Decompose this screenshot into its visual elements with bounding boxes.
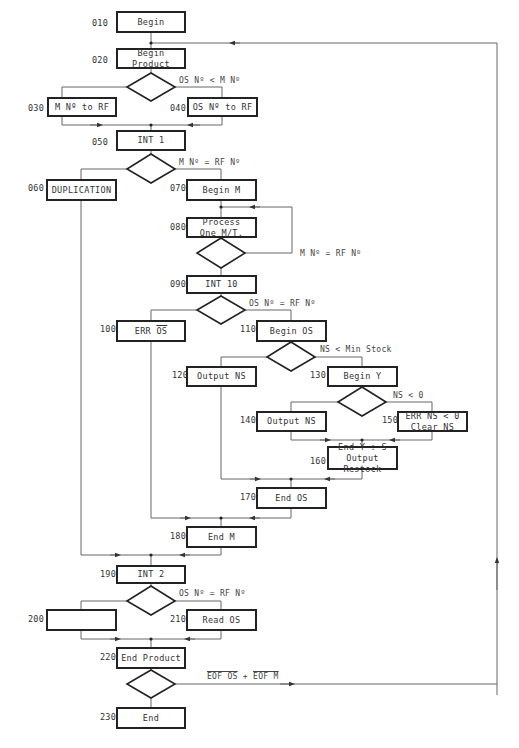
node-label: Begin Product bbox=[118, 48, 184, 70]
node-number: 020 bbox=[92, 55, 108, 65]
condition-eof-os: EOF OS bbox=[207, 672, 238, 681]
node-160-end-y-output-restock: End Y : S Output Restock bbox=[327, 446, 398, 470]
condition-label-d4: OS Nº = RF Nº bbox=[249, 299, 316, 308]
node-label: Begin bbox=[137, 17, 164, 28]
decision-d7 bbox=[127, 586, 175, 615]
node-number: 010 bbox=[92, 18, 108, 28]
node-label: Process One M/T. bbox=[200, 217, 243, 239]
node-030-m-to-rf: M Nº to RF bbox=[47, 97, 117, 117]
condition-label-d1: OS Nº < M Nº bbox=[179, 76, 240, 85]
node-090-int10: INT 10 bbox=[186, 275, 257, 294]
node-label: ERR NS < 0 Clear NS bbox=[405, 411, 459, 433]
node-number: 150 bbox=[382, 415, 398, 425]
node-label: DUPLICATION bbox=[52, 185, 112, 196]
node-label-overline: OS bbox=[156, 326, 167, 337]
node-080-process-one-mt: Process One M/T. bbox=[186, 217, 257, 238]
node-120-output-ns: Output NS bbox=[186, 366, 257, 387]
node-220-end-product: End Product bbox=[116, 647, 186, 669]
node-number: 230 bbox=[100, 712, 116, 722]
node-label: OS Nº to RF bbox=[193, 102, 253, 113]
node-210-read-os: Read OS bbox=[186, 609, 257, 631]
node-140-output-ns: Output NS bbox=[256, 411, 327, 432]
condition-label-d6: NS < 0 bbox=[393, 391, 424, 400]
decision-d3 bbox=[197, 238, 245, 268]
node-number: 190 bbox=[100, 569, 116, 579]
node-label: End OS bbox=[275, 493, 308, 504]
decision-d5 bbox=[267, 342, 315, 371]
node-110-begin-os: Begin OS bbox=[256, 320, 327, 342]
node-010-begin: Begin bbox=[116, 11, 186, 33]
node-number: 060 bbox=[28, 183, 44, 193]
node-050-int1: INT 1 bbox=[116, 130, 186, 151]
decision-d1 bbox=[127, 73, 175, 101]
condition-label-d3: M Nº = RF Nº bbox=[300, 249, 361, 258]
node-label: End Y : S Output Restock bbox=[329, 442, 396, 475]
node-label: End Product bbox=[121, 653, 181, 664]
node-number: 180 bbox=[170, 531, 186, 541]
node-number: 090 bbox=[170, 279, 186, 289]
condition-label-d2: M Nº = RF Nº bbox=[179, 158, 240, 167]
node-label: Output NS bbox=[267, 416, 316, 427]
node-190-int2: INT 2 bbox=[116, 565, 186, 584]
node-label: Read OS bbox=[203, 615, 241, 626]
node-040-os-to-rf: OS Nº to RF bbox=[187, 97, 258, 117]
condition-eof-m: EOF M bbox=[253, 672, 279, 681]
node-100-err-os: ERR OS bbox=[116, 320, 186, 342]
node-label: INT 1 bbox=[137, 135, 164, 146]
node-number: 070 bbox=[170, 183, 186, 193]
decision-d6 bbox=[338, 387, 386, 416]
node-number: 100 bbox=[100, 324, 116, 334]
node-label: INT 10 bbox=[205, 279, 238, 290]
node-number: 140 bbox=[240, 415, 256, 425]
node-number: 130 bbox=[310, 370, 326, 380]
condition-or: + bbox=[238, 672, 253, 681]
node-number: 050 bbox=[92, 137, 108, 147]
node-230-end: End bbox=[116, 707, 186, 729]
condition-label-d8: EOF OS + EOF M bbox=[207, 672, 279, 681]
node-number: 160 bbox=[310, 456, 326, 466]
node-label: ERR bbox=[135, 326, 157, 337]
node-number: 030 bbox=[28, 103, 44, 113]
node-180-end-m: End M bbox=[186, 526, 257, 548]
node-150-err-ns-clear: ERR NS < 0 Clear NS bbox=[397, 411, 468, 432]
node-label: Begin M bbox=[203, 185, 241, 196]
node-130-begin-y: Begin Y bbox=[327, 366, 398, 387]
node-170-end-os: End OS bbox=[256, 487, 327, 509]
node-number: 200 bbox=[28, 614, 44, 624]
node-number: 080 bbox=[170, 222, 186, 232]
condition-label-d7: OS Nº = RF Nº bbox=[179, 589, 246, 598]
node-label: End bbox=[143, 713, 159, 724]
node-number: 210 bbox=[170, 614, 186, 624]
node-label: M Nº to RF bbox=[55, 102, 109, 113]
node-070-begin-m: Begin M bbox=[186, 179, 257, 201]
node-label: INT 2 bbox=[137, 569, 164, 580]
node-label: Begin OS bbox=[270, 326, 313, 337]
node-200-empty bbox=[46, 609, 117, 631]
decision-d4 bbox=[197, 296, 245, 324]
node-label: Output NS bbox=[197, 371, 246, 382]
condition-label-d5: NS < Min Stock bbox=[320, 345, 392, 354]
decision-d2 bbox=[127, 154, 175, 183]
node-number: 220 bbox=[100, 652, 116, 662]
node-label: Begin Y bbox=[344, 371, 382, 382]
node-number: 110 bbox=[240, 324, 256, 334]
node-060-duplication: DUPLICATION bbox=[46, 179, 117, 201]
node-020-begin-product: Begin Product bbox=[116, 48, 186, 69]
node-label: End M bbox=[208, 532, 235, 543]
node-number: 170 bbox=[240, 492, 256, 502]
node-number: 040 bbox=[170, 103, 186, 113]
decision-d8 bbox=[127, 670, 175, 698]
